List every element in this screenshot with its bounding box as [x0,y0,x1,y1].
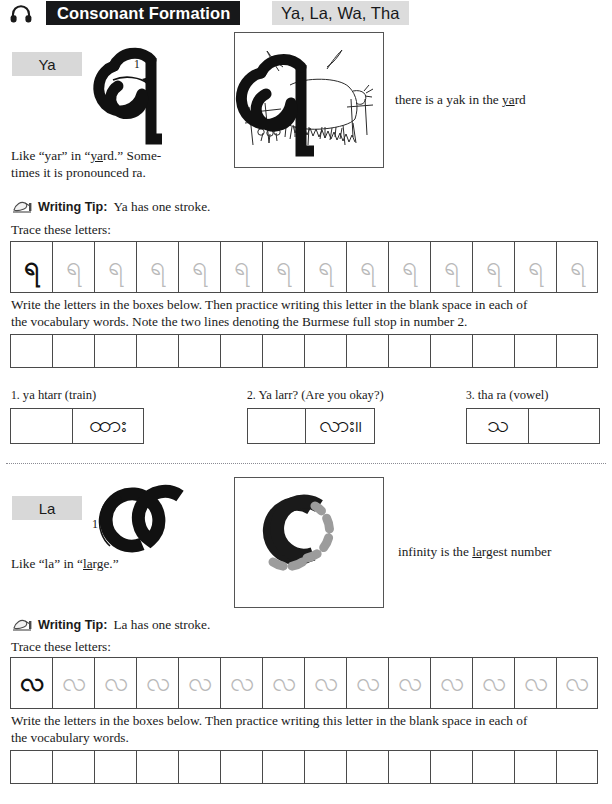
trace-cell[interactable]: လ [178,657,220,709]
vocab-label-1: 1. ya htarr (train) [11,388,96,403]
trace-cell[interactable]: ရ [220,241,262,293]
vocab-text-2: Ya larr? (Are you okay?) [258,388,383,402]
write-cell[interactable] [556,750,598,784]
trace-glyph-ghost: လ [314,670,338,696]
write-cell[interactable] [136,334,178,368]
write-cell[interactable] [472,334,514,368]
pronunciation-line-2: times it is pronounced ra. [11,165,221,182]
trace-prompt-la: Trace these letters: [11,639,111,656]
write-cell[interactable] [262,334,304,368]
letter-chip-ya: Ya [12,52,82,76]
trace-cell[interactable]: လ [10,657,52,709]
write-cell[interactable] [178,334,220,368]
write-cell[interactable] [556,334,598,368]
trace-cell[interactable]: ရ [136,241,178,293]
trace-cell[interactable]: ရ [514,241,556,293]
write-cell[interactable] [94,334,136,368]
vocab-boxes-2[interactable]: လား။ [247,408,375,444]
vocab-blank-cell[interactable] [10,408,72,444]
trace-glyph-ghost: ရ [192,254,207,280]
write-cell[interactable] [10,750,52,784]
vocab-burmese-1: ထား [89,409,127,443]
trace-glyph-ghost: ရ [444,254,459,280]
trace-cell[interactable]: ရ [262,241,304,293]
pronunciation-line-1: Like “yar” in “yard.” Some- [11,148,221,165]
stroke-diagram-ya: 1 [96,36,176,148]
write-cell[interactable] [388,750,430,784]
trace-cell[interactable]: လ [52,657,94,709]
page-header: Consonant Formation Ya, La, Wa, Tha [0,0,612,28]
trace-cell[interactable]: ရ [556,241,598,293]
trace-glyph-ghost: လ [104,670,128,696]
trace-glyph-ghost: လ [188,670,212,696]
trace-row-la[interactable]: လလလလလလလလလလလလလလ [10,657,598,709]
trace-row-ya[interactable]: ရရရရရရရရရရရရရရ [10,241,598,293]
trace-cell[interactable]: ရ [10,241,52,293]
write-cell[interactable] [304,750,346,784]
trace-cell[interactable]: လ [556,657,598,709]
write-row-ya[interactable] [10,334,598,368]
write-cell[interactable] [346,750,388,784]
writing-hand-icon [12,200,32,214]
write-cell[interactable] [52,334,94,368]
write-cell[interactable] [220,750,262,784]
write-cell[interactable] [10,334,52,368]
write-cell[interactable] [178,750,220,784]
trace-glyph-ghost: လ [272,670,296,696]
write-cell[interactable] [136,750,178,784]
write-cell[interactable] [346,334,388,368]
trace-glyph-ghost: လ [440,670,464,696]
trace-glyph-ghost: လ [482,670,506,696]
trace-cell[interactable]: ရ [178,241,220,293]
write-cell[interactable] [430,750,472,784]
write-cell[interactable] [52,750,94,784]
stroke-diagram-la: 1 [80,480,225,560]
vocab-boxes-1[interactable]: ထား [10,408,144,444]
trace-cell[interactable]: ရ [304,241,346,293]
write-cell[interactable] [514,750,556,784]
write-cell[interactable] [472,750,514,784]
trace-glyph-ghost: ရ [276,254,291,280]
write-cell[interactable] [220,334,262,368]
trace-glyph-ghost: လ [565,670,589,696]
trace-glyph-model: ရ [24,254,39,280]
section-divider [6,463,606,464]
trace-cell[interactable]: ရ [94,241,136,293]
trace-cell[interactable]: ရ [388,241,430,293]
trace-cell[interactable]: လ [514,657,556,709]
trace-cell[interactable]: ရ [346,241,388,293]
writing-tip-label: Writing Tip: [38,200,108,214]
vocab-blank-cell[interactable] [528,408,600,444]
trace-cell[interactable]: ရ [472,241,514,293]
trace-cell[interactable]: လ [220,657,262,709]
write-cell[interactable] [262,750,304,784]
vocab-label-2: 2. Ya larr? (Are you okay?) [247,388,384,403]
trace-cell[interactable]: လ [94,657,136,709]
write-cell[interactable] [388,334,430,368]
vocab-word-cell: ထား [72,408,144,444]
trace-cell[interactable]: ရ [430,241,472,293]
write-cell[interactable] [514,334,556,368]
trace-cell[interactable]: လ [262,657,304,709]
trace-glyph-ghost: ရ [150,254,165,280]
trace-cell[interactable]: လ [346,657,388,709]
write-row-la[interactable] [10,750,598,784]
vocab-blank-cell[interactable] [247,408,305,444]
trace-cell[interactable]: လ [430,657,472,709]
trace-glyph-ghost: ရ [66,254,81,280]
write-cell[interactable] [94,750,136,784]
pronunciation-note-ya: Like “yar” in “yard.” Some- times it is … [11,148,221,181]
trace-cell[interactable]: လ [388,657,430,709]
letter-chip-la: La [12,496,82,520]
trace-prompt-ya: Trace these letters: [11,222,111,239]
caption-infinity: infinity is the largest number [398,544,598,561]
trace-cell[interactable]: လ [136,657,178,709]
vocab-number-3: 3. [466,389,475,402]
write-cell[interactable] [430,334,472,368]
vocab-boxes-3[interactable]: သ [466,408,600,444]
trace-cell[interactable]: လ [304,657,346,709]
write-cell[interactable] [304,334,346,368]
trace-cell[interactable]: လ [472,657,514,709]
trace-glyph-ghost: လ [146,670,170,696]
trace-cell[interactable]: ရ [52,241,94,293]
